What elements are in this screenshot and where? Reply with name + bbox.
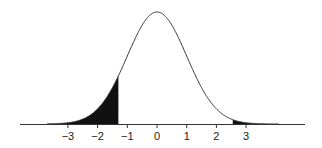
left-tail-shade [47,76,118,124]
x-tick-label: −1 [121,130,134,142]
x-tick-label: −3 [62,130,75,142]
x-tick-label: 0 [154,130,160,142]
x-tick-label: −2 [91,130,104,142]
normal-distribution-chart: −3−2−10123 [0,0,322,148]
x-axis-ticks: −3−2−10123 [62,124,250,142]
x-tick-label: 2 [213,130,219,142]
x-tick-label: 1 [184,130,190,142]
density-curve [47,12,279,124]
x-tick-label: 3 [243,130,249,142]
